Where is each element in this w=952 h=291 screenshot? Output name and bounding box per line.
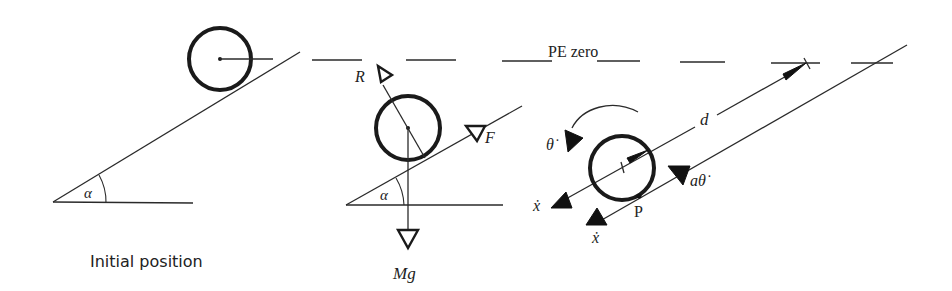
incline-slope xyxy=(53,52,300,202)
reaction-force-label: R xyxy=(354,68,365,85)
panel-forces: α R Mg F xyxy=(346,66,522,283)
center-path-line-upper xyxy=(717,74,790,115)
incline-base xyxy=(53,202,193,203)
caption-initial-position: Initial position xyxy=(90,252,203,271)
weight-force-label: Mg xyxy=(392,264,416,283)
incline-slope xyxy=(346,106,522,205)
point-velocity-arrow-icon xyxy=(586,208,607,225)
rotation-arc xyxy=(572,105,638,128)
center-velocity-label: ẋ xyxy=(532,197,541,214)
angle-alpha-label: α xyxy=(380,187,389,203)
friction-force-label: F xyxy=(484,129,495,146)
angle-alpha-label: α xyxy=(84,185,93,201)
incline-surface-line xyxy=(600,45,907,221)
contact-point-label: P xyxy=(634,203,643,220)
contact-velocity-label: aθ̇ xyxy=(690,172,711,189)
angular-velocity-label: θ̇ xyxy=(546,136,559,153)
friction-force-arrow-icon xyxy=(466,126,485,141)
reaction-force-arrow-icon xyxy=(378,66,392,82)
radius-arrow-icon xyxy=(627,150,648,163)
point-velocity-label: ẋ xyxy=(591,229,600,246)
center-velocity-arrow-icon xyxy=(551,192,572,208)
distance-d-label: d xyxy=(700,110,709,129)
panel-kinematics: d θ̇ aθ̇ P ẋ ẋ xyxy=(532,45,907,246)
angle-arc xyxy=(99,175,106,203)
angle-arc xyxy=(396,178,404,205)
contact-point-dot xyxy=(637,194,642,199)
weight-force-arrow-icon xyxy=(398,230,418,248)
contact-velocity-arrow-icon xyxy=(668,166,690,185)
distance-arrowhead-icon xyxy=(783,63,806,80)
rotation-arrow-icon xyxy=(565,130,583,152)
pe-zero-label: PE zero xyxy=(548,43,598,60)
panel-initial-position: α Initial position xyxy=(53,28,300,271)
rolling-cylinder-diagram: PE zero α Initial position α R Mg F xyxy=(0,0,952,291)
